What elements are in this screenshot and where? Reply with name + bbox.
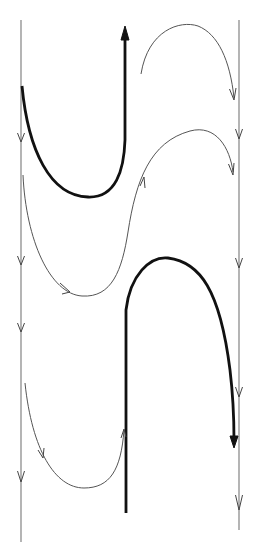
flow-diagram	[0, 0, 256, 558]
thin-s-middle	[23, 130, 234, 296]
arrow-down-icon	[230, 436, 238, 448]
thin-arc-top	[141, 24, 236, 100]
thin-u-bottom	[25, 383, 126, 488]
thick-u-top	[22, 26, 129, 197]
arrow-down-icon	[229, 163, 235, 175]
arrow-right-icon	[60, 283, 70, 294]
arrow-up-icon	[121, 26, 129, 40]
right-guide	[236, 20, 243, 530]
thick-n-bottom	[126, 258, 238, 513]
